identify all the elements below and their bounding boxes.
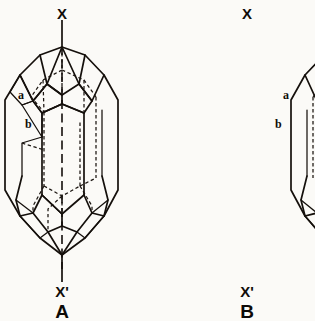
crystal-b-axis-bottom-label: X' [240,283,254,300]
crystal-a-upper-face-right-lower [62,84,92,113]
crystal-b-face-label-a: a [283,88,289,102]
crystal-b-upper-face-right [305,55,315,101]
crystal-b-group [291,20,315,282]
crystal-a-hidden-rear-left-drop [43,80,44,112]
crystal-figure: a b X X' A [0,0,315,321]
crystal-a-axis-top-label: X [57,5,67,22]
crystal-a-lower-face-right [92,176,108,216]
crystal-b-labels: a b X X' B [240,5,289,321]
crystal-b-caption: B [240,301,254,321]
crystal-a-face-label-a: a [18,88,24,102]
crystal-a-face-label-b: b [25,117,32,131]
crystal-a-prism-edge-far-left [22,137,42,176]
crystal-a-lower-face-left [16,176,33,216]
crystal-a-hidden-rear-lower-girdle-right [80,178,96,186]
crystal-b-axis-top-label: X [242,5,252,22]
crystal-a-caption: A [55,301,69,321]
crystal-a-drawing: a b X X' A [0,0,315,321]
crystal-a-hidden-mid-left [22,143,44,150]
crystal-a-axis-bottom-label: X' [55,283,69,300]
crystal-a-hidden-lower-left [48,196,62,231]
crystal-a-group: a b X X' A [5,5,118,321]
crystal-a-prism-shoulder [42,104,84,113]
crystal-b-hidden-rear-lower-girdle-right [313,178,315,186]
crystal-b-face-label-b: b [275,117,282,131]
